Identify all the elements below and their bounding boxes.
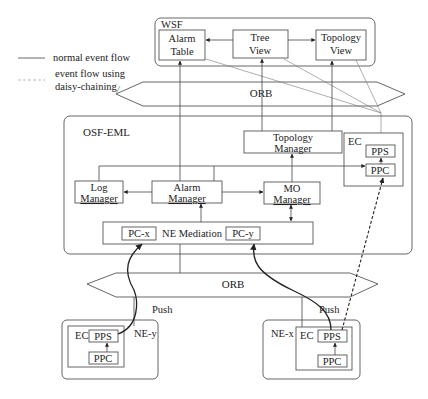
topology-view-label-2: View: [330, 45, 353, 56]
alarm-table-label-2: Table: [170, 46, 194, 57]
legend-normal-label: normal event flow: [53, 52, 130, 63]
bus-to-ec-ppc: [99, 166, 365, 181]
osf-eml-group: OSF-EML Topology Manager EC PPS PPC Log …: [64, 116, 412, 254]
fan-line-alarm-table: [206, 59, 381, 113]
topology-manager-label-1: Topology: [273, 132, 314, 143]
ne-y-title: NE-y: [134, 328, 157, 339]
mo-manager-label-2: Manager: [273, 194, 311, 205]
alarm-table-label-1: Alarm: [169, 33, 196, 44]
osf-eml-title: OSF-EML: [83, 126, 130, 138]
push-label-left: Push: [152, 304, 173, 315]
ne-y-group: EC PPS PPC NE-y: [62, 320, 158, 379]
wsf-group: WSF Alarm Table Tree View Topology View: [155, 18, 375, 66]
ne-y-ppc-label: PPC: [94, 353, 113, 364]
log-manager-label-1: Log: [91, 182, 109, 193]
orb-top-label: ORB: [250, 87, 273, 99]
legend-daisy-label-2: daisy-chaining: [55, 81, 118, 92]
wsf-title: WSF: [161, 19, 183, 30]
mo-manager-label-1: MO: [284, 183, 301, 194]
ne-x-group: NE-x EC PPS PPC: [263, 320, 360, 379]
tree-view-label-2: View: [249, 45, 272, 56]
pc-y-label: PC-y: [232, 228, 254, 239]
ec-ppc-label: PPC: [371, 165, 390, 176]
architecture-diagram: normal event flow event flow using daisy…: [0, 0, 428, 399]
push-curve-ne-y-to-pc-x: [118, 244, 142, 334]
topology-view-label-1: Topology: [321, 32, 362, 43]
ne-x-ec-label: EC: [300, 330, 313, 341]
pc-x-label: PC-x: [128, 228, 150, 239]
ne-x-pps-label: PPS: [323, 331, 341, 342]
alarm-manager-label-2: Manager: [168, 193, 206, 204]
tree-view-label-1: Tree: [251, 32, 270, 43]
ne-y-pps-label: PPS: [94, 331, 112, 342]
ne-y-ec-label: EC: [75, 330, 88, 341]
orb-bottom-label: ORB: [222, 278, 245, 290]
ne-x-ppc-label: PPC: [323, 356, 342, 367]
fan-line-topology-view: [356, 60, 381, 113]
fan-line-tree-view: [284, 59, 381, 113]
ne-x-title: NE-x: [271, 328, 294, 339]
push-curve-ne-x-to-pc-y: [254, 244, 331, 330]
topology-manager-label-2: Manager: [274, 143, 312, 154]
ne-mediation-label: NE Mediation: [162, 228, 223, 239]
legend-daisy-label-1: event flow using: [55, 68, 126, 79]
legend: normal event flow event flow using daisy…: [18, 52, 130, 92]
alarm-manager-label-1: Alarm: [174, 182, 201, 193]
log-manager-label-2: Manager: [80, 193, 118, 204]
ec-pps-label: PPS: [371, 146, 389, 157]
ec-title: EC: [348, 136, 361, 147]
